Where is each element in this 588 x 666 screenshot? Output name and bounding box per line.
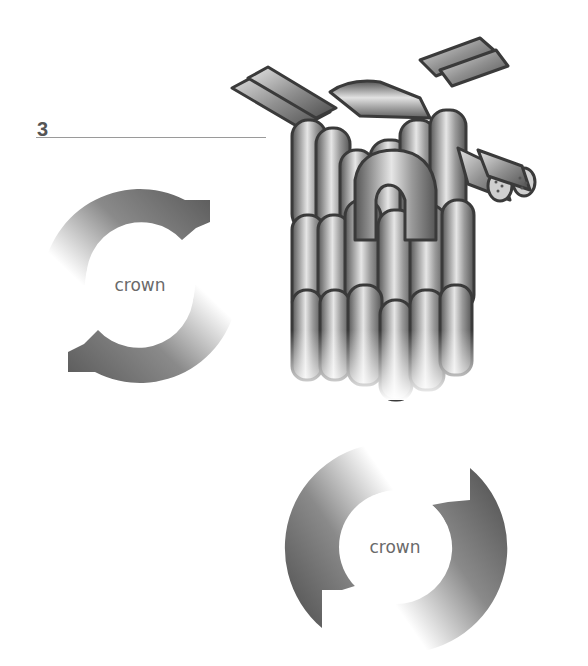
crown-label-left: crown bbox=[114, 275, 165, 295]
knot-fade-overlay bbox=[285, 330, 485, 400]
crown-label-right: crown bbox=[369, 537, 420, 557]
crown-cycle-right: crown bbox=[285, 443, 507, 653]
diagram-canvas: crown crown bbox=[0, 0, 588, 666]
crown-cycle-left: crown bbox=[42, 189, 238, 383]
